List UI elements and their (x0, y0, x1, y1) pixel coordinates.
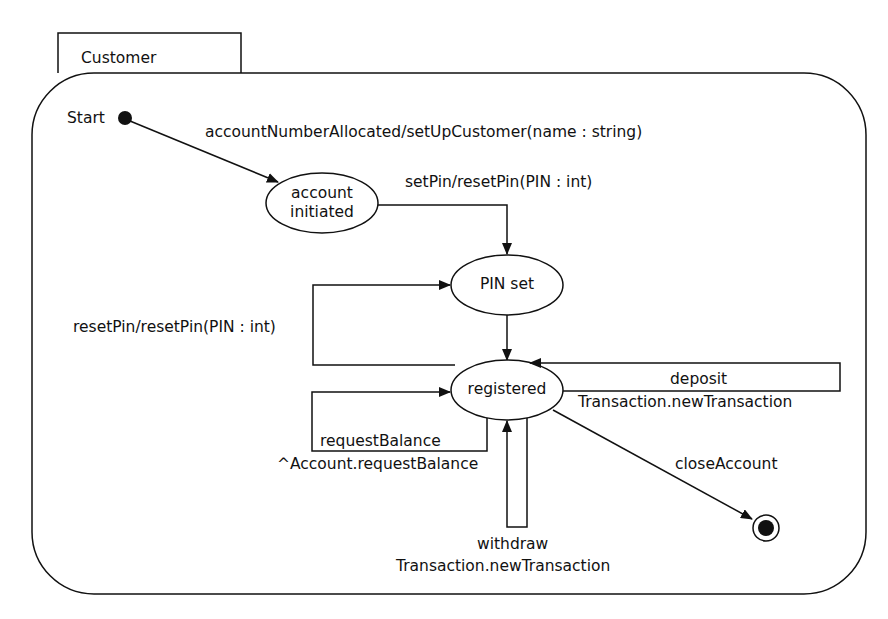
transition-label-close-account: closeAccount (675, 455, 778, 473)
state-label-account-line1: account (266, 184, 378, 203)
transition-reset-pin-loop (313, 285, 455, 365)
transition-label-withdraw: withdraw (477, 535, 548, 553)
final-state-dot (758, 520, 774, 536)
transition-label-account-request-balance: ^Account.requestBalance (277, 455, 478, 473)
transition-label-deposit-transaction: Transaction.newTransaction (578, 393, 792, 411)
transition-withdraw-loop (507, 418, 527, 527)
state-diagram (0, 0, 888, 619)
transition-label-account-number-allocated: accountNumberAllocated/setUpCustomer(nam… (205, 123, 642, 141)
transition-label-withdraw-transaction: Transaction.newTransaction (396, 557, 610, 575)
state-label-pin-set: PIN set (451, 275, 563, 294)
start-label: Start (67, 109, 105, 127)
initial-state-dot (118, 111, 132, 125)
state-label-registered: registered (451, 380, 563, 399)
transition-account-initiated-to-pin-set (378, 205, 507, 254)
state-label-account-line2: initiated (266, 203, 378, 222)
transition-label-request-balance: requestBalance (320, 432, 441, 450)
transition-label-reset-pin: resetPin/resetPin(PIN : int) (73, 318, 276, 336)
state-label-account-initiated: account initiated (266, 184, 378, 222)
transition-label-deposit: deposit (670, 370, 727, 388)
transition-label-set-pin: setPin/resetPin(PIN : int) (405, 173, 592, 191)
container-title: Customer (81, 49, 156, 67)
